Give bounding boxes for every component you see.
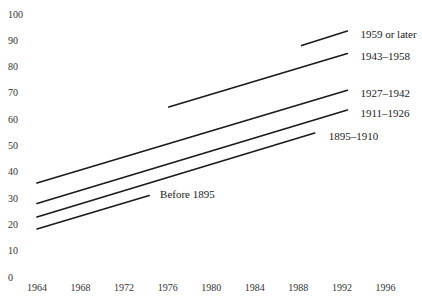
x-tick-label: 1968 [71,282,91,293]
x-tick-label: 1980 [201,282,221,293]
y-tick-label: 30 [8,193,18,204]
y-tick-label: 20 [8,219,18,230]
y-axis-ticks: 0102030405060708090100 [8,9,23,283]
x-tick-label: 1996 [375,282,395,293]
x-axis-ticks: 196419681972197619801984198819921996 [27,282,395,293]
y-tick-label: 60 [8,114,18,125]
series-label: 1943–1958 [360,50,410,62]
series-label: 1959 or later [360,28,417,40]
series-line [302,31,348,45]
y-tick-label: 90 [8,35,18,46]
x-tick-label: 1984 [245,282,265,293]
y-tick-label: 50 [8,140,18,151]
x-tick-label: 1972 [114,282,134,293]
series-label: 1895–1910 [329,130,379,142]
series-label: 1927–1942 [360,87,410,99]
x-tick-label: 1964 [27,282,47,293]
series-label: 1911–1926 [360,107,410,119]
x-tick-label: 1988 [288,282,308,293]
series-label: Before 1895 [160,188,215,200]
x-tick-label: 1992 [332,282,352,293]
line-chart: 0102030405060708090100 19641968197219761… [0,0,422,302]
series-labels: Before 18951895–19101911–19261927–194219… [160,28,417,200]
y-tick-label: 40 [8,166,18,177]
y-tick-label: 0 [8,272,13,283]
y-tick-label: 10 [8,245,18,256]
y-tick-label: 100 [8,9,23,20]
series-line [37,133,315,217]
y-tick-label: 80 [8,61,18,72]
x-tick-label: 1976 [158,282,178,293]
y-tick-label: 70 [8,87,18,98]
